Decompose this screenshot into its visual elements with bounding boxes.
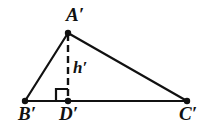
geometry-figure: A′ B′ D′ C′ h′ bbox=[0, 0, 208, 137]
vertex-label-c: C′ bbox=[179, 104, 197, 123]
vertex-label-a: A′ bbox=[66, 5, 84, 24]
altitude-label-h: h′ bbox=[73, 58, 87, 77]
vertex-label-b: B′ bbox=[18, 104, 36, 123]
segment-side-ab bbox=[25, 33, 68, 101]
vertex-dot-a bbox=[65, 30, 71, 36]
vertex-label-d: D′ bbox=[59, 104, 78, 123]
